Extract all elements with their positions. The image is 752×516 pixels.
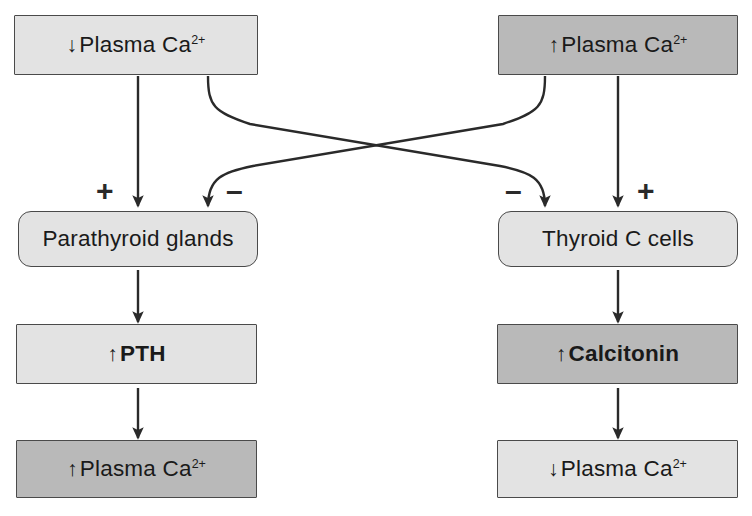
up-arrow-icon: ↑ bbox=[549, 33, 560, 56]
node-high-plasma-ca-top: ↑Plasma Ca2+ bbox=[498, 15, 738, 75]
sign-stimulate-parathyroid: + bbox=[96, 176, 114, 206]
diagram-canvas: ↓Plasma Ca2+ ↑Plasma Ca2+ Parathyroid gl… bbox=[0, 0, 752, 516]
node-thyroid-c-cells: Thyroid C cells bbox=[498, 211, 738, 267]
node-high-plasma-ca-bottom: ↑Plasma Ca2+ bbox=[16, 440, 257, 498]
node-parathyroid-glands-label: Parathyroid glands bbox=[42, 228, 233, 251]
node-pth-label: ↑PTH bbox=[107, 343, 165, 366]
sign-inhibit-thyroid-c: – bbox=[505, 176, 522, 206]
up-arrow-icon: ↑ bbox=[67, 457, 78, 480]
down-arrow-icon: ↓ bbox=[548, 457, 559, 480]
node-low-plasma-ca-top: ↓Plasma Ca2+ bbox=[14, 15, 258, 75]
node-pth: ↑PTH bbox=[16, 324, 257, 384]
sign-stimulate-thyroid-c: + bbox=[637, 176, 655, 206]
node-low-plasma-ca-bottom-label: ↓Plasma Ca2+ bbox=[548, 458, 687, 481]
node-thyroid-c-cells-label: Thyroid C cells bbox=[542, 228, 694, 251]
sign-inhibit-parathyroid: – bbox=[226, 176, 243, 206]
node-high-plasma-ca-bottom-label: ↑Plasma Ca2+ bbox=[67, 458, 206, 481]
node-low-plasma-ca-top-label: ↓Plasma Ca2+ bbox=[67, 34, 206, 57]
node-parathyroid-glands: Parathyroid glands bbox=[18, 211, 258, 267]
edge-high-ca-to-parathyroid bbox=[208, 76, 545, 206]
node-low-plasma-ca-bottom: ↓Plasma Ca2+ bbox=[497, 440, 738, 498]
node-calcitonin: ↑Calcitonin bbox=[497, 324, 738, 384]
node-calcitonin-label: ↑Calcitonin bbox=[556, 343, 679, 366]
down-arrow-icon: ↓ bbox=[67, 33, 78, 56]
up-arrow-icon: ↑ bbox=[107, 342, 118, 365]
up-arrow-icon: ↑ bbox=[556, 342, 567, 365]
node-high-plasma-ca-top-label: ↑Plasma Ca2+ bbox=[549, 34, 688, 57]
edge-low-ca-to-thyroid-c bbox=[208, 76, 545, 206]
